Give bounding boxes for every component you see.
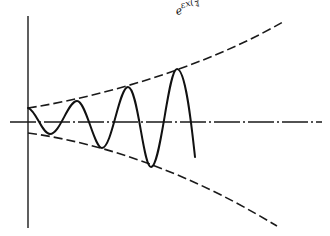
oscillation-curve [28,69,195,167]
oscillation-diagram [0,0,330,236]
lower-envelope [28,133,277,226]
upper-envelope [28,22,283,108]
